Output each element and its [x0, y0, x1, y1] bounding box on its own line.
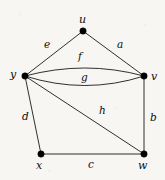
vertex-label-u: u [79, 14, 86, 25]
graph-canvas [0, 0, 165, 180]
vertex-x [38, 151, 44, 157]
edge-label-h: h [99, 105, 106, 116]
vertex-label-w: w [138, 160, 147, 171]
edge-label-e: e [44, 39, 50, 50]
vertex-w [141, 151, 147, 157]
edge-label-f: f [78, 51, 82, 62]
graph-figure: u y v x w e a f g d h b c [0, 0, 165, 180]
vertex-u [80, 28, 86, 34]
edge-label-d: d [22, 111, 29, 122]
edge-label-a: a [117, 39, 123, 50]
edge-label-g: g [81, 72, 88, 83]
edge-e-y-u [25, 31, 83, 76]
vertex-label-x: x [36, 160, 42, 171]
vertex-label-y: y [10, 69, 16, 80]
edge-label-c: c [88, 159, 94, 170]
vertex-label-v: v [151, 71, 157, 82]
edge-h-y-w [25, 76, 144, 154]
edge-label-b: b [150, 112, 157, 123]
edge-a-u-v [83, 31, 144, 76]
vertex-y [22, 73, 28, 79]
vertex-v [141, 73, 147, 79]
